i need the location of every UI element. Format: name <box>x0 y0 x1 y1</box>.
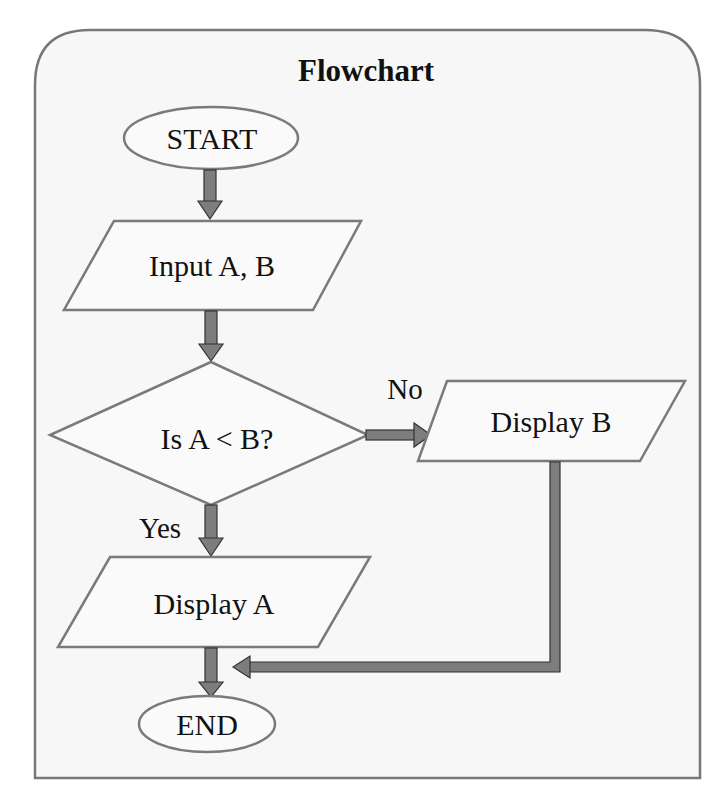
edge-label-yes: Yes <box>139 514 181 543</box>
diagram-title: Flowchart <box>298 55 434 86</box>
end-label: END <box>176 710 238 740</box>
start-label: START <box>167 124 258 154</box>
flowchart-canvas <box>0 0 727 792</box>
decision-label: Is A < B? <box>161 424 274 454</box>
display-a-label: Display A <box>154 589 275 619</box>
flowchart-diagram: Flowchart START Input A, B Is A < B? Dis… <box>0 0 727 792</box>
edge-label-no: No <box>387 375 422 404</box>
input-label: Input A, B <box>149 251 275 281</box>
display-b-label: Display B <box>491 407 612 437</box>
